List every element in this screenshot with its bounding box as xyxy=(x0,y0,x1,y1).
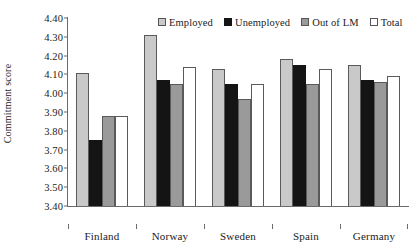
x-axis-tick-mark xyxy=(204,224,205,229)
bar-group-germany xyxy=(340,18,408,206)
bar-group-norway xyxy=(136,18,204,206)
bar-norway-unemployed xyxy=(157,80,170,206)
bar-group-finland xyxy=(68,18,136,206)
x-axis-line xyxy=(67,206,409,207)
plot-area: 4.404.304.204.104.003.903.803.703.603.50… xyxy=(68,18,408,206)
bar-sweden-unemployed xyxy=(225,84,238,206)
bar-germany-employed xyxy=(348,65,361,206)
bar-sweden-out-of-lm xyxy=(238,99,251,206)
bar-group-spain xyxy=(272,18,340,206)
bar-spain-out-of-lm xyxy=(306,84,319,206)
bar-finland-employed xyxy=(76,73,89,206)
x-axis-tick-mark xyxy=(68,224,69,229)
x-axis-tick-mark xyxy=(272,224,273,229)
bar-sweden-employed xyxy=(212,69,225,206)
x-axis-label-sweden: Sweden xyxy=(220,230,256,243)
x-axis-label-germany: Germany xyxy=(353,230,395,243)
bar-spain-employed xyxy=(280,59,293,206)
bar-norway-total xyxy=(183,67,196,206)
bar-finland-unemployed xyxy=(89,140,102,206)
x-axis-tick-mark xyxy=(136,224,137,229)
bar-germany-total xyxy=(387,76,400,206)
bar-sweden-total xyxy=(251,84,264,206)
x-axis-label-norway: Norway xyxy=(152,230,189,243)
bar-norway-employed xyxy=(144,35,157,206)
x-axis-tick-mark xyxy=(407,224,408,229)
bar-group-sweden xyxy=(204,18,272,206)
x-axis-tick-mark xyxy=(340,224,341,229)
x-axis-label-finland: Finland xyxy=(84,230,119,243)
bar-germany-out-of-lm xyxy=(374,82,387,206)
bar-finland-total xyxy=(115,116,128,206)
x-axis-label-spain: Spain xyxy=(293,230,319,243)
bar-germany-unemployed xyxy=(361,80,374,206)
bar-spain-unemployed xyxy=(293,65,306,206)
bar-finland-out-of-lm xyxy=(102,116,115,206)
bar-spain-total xyxy=(319,69,332,206)
y-axis-title-label: Commitment score xyxy=(3,63,14,143)
bar-norway-out-of-lm xyxy=(170,84,183,206)
y-axis-title: Commitment score xyxy=(1,0,15,206)
